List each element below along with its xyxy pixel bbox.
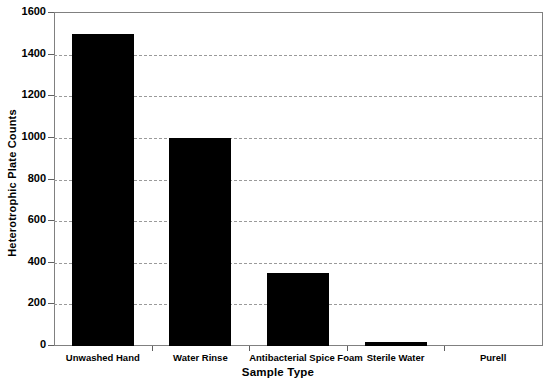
bar (169, 138, 231, 346)
y-tick-label: 1000 (0, 131, 46, 142)
y-tick-label: 1400 (0, 48, 46, 59)
y-tick-label: 400 (0, 256, 46, 267)
x-axis-title: Sample Type (54, 366, 502, 378)
y-tick-mark (48, 12, 54, 13)
x-tick-mark (347, 346, 348, 351)
y-tick-label: 1600 (0, 6, 46, 17)
y-tick-label: 1200 (0, 89, 46, 100)
y-tick-mark (48, 137, 54, 138)
y-tick-mark (48, 179, 54, 180)
x-tick-label: Purell (444, 352, 542, 364)
bar (365, 342, 427, 346)
x-tick-label: Unwashed Hand (54, 352, 152, 364)
x-tick-mark (444, 346, 445, 351)
y-tick-mark (48, 303, 54, 304)
bar-chart: Heterotrophic Plate Counts 0200400600800… (0, 0, 554, 384)
y-tick-mark (48, 262, 54, 263)
bar (267, 273, 329, 346)
y-tick-label: 800 (0, 173, 46, 184)
x-tick-label: Antibacterial Spice Foam (249, 352, 347, 364)
y-tick-mark (48, 345, 54, 346)
x-tick-mark (152, 346, 153, 351)
y-tick-mark (48, 95, 54, 96)
y-tick-label: 600 (0, 214, 46, 225)
x-tick-mark (249, 346, 250, 351)
plot-area (54, 12, 543, 346)
y-tick-mark (48, 220, 54, 221)
x-tick-label: Water Rinse (152, 352, 250, 364)
y-tick-label: 200 (0, 297, 46, 308)
y-tick-mark (48, 54, 54, 55)
x-tick-label: Sterile Water (347, 352, 445, 364)
bar (72, 34, 134, 346)
y-tick-label: 0 (0, 339, 46, 350)
